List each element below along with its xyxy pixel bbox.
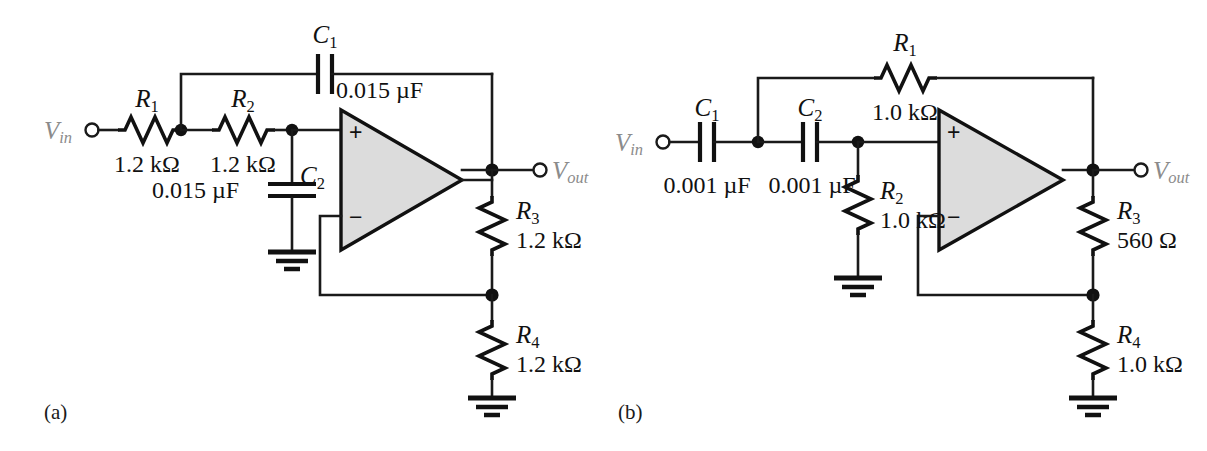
resistor-r4-symbol-b bbox=[1080, 320, 1106, 380]
label-r1-ref-b: R1 bbox=[893, 30, 917, 59]
label-c1-value-b: 0.001 µF bbox=[663, 173, 750, 197]
input-terminal-b[interactable] bbox=[657, 136, 670, 149]
label-r1-value-b: 1.0 kΩ bbox=[872, 100, 938, 124]
label-c1-value-a: 0.015 µF bbox=[336, 78, 423, 102]
label-vin-b: Vin bbox=[615, 130, 643, 159]
ground-symbol-r4-b bbox=[1069, 398, 1117, 415]
label-r1-value-a: 1.2 kΩ bbox=[114, 152, 180, 176]
label-c1-ref-a: C1 bbox=[313, 22, 338, 51]
label-vout-a: Vout bbox=[552, 158, 588, 187]
label-r4-value-b: 1.0 kΩ bbox=[1117, 352, 1183, 376]
output-terminal-b[interactable] bbox=[1135, 164, 1148, 177]
label-c2-value-b: 0.001 µF bbox=[768, 173, 855, 197]
ground-symbol-c2-a bbox=[268, 252, 316, 269]
ground-symbol-r4-a bbox=[468, 398, 516, 415]
label-r2-value-a: 1.2 kΩ bbox=[210, 152, 276, 176]
label-r4-value-a: 1.2 kΩ bbox=[516, 352, 582, 376]
opamp-inverting-sign-a: − bbox=[349, 206, 362, 229]
caption-a: (a) bbox=[44, 402, 67, 423]
label-r4-ref-b: R4 bbox=[1117, 322, 1141, 351]
resistor-r1-symbol-a bbox=[118, 117, 181, 143]
label-r2-ref-b: R2 bbox=[880, 178, 904, 207]
label-vin-a: Vin bbox=[44, 118, 72, 147]
label-c2-ref-a: C2 bbox=[300, 163, 325, 192]
opamp-noninverting-sign-b: + bbox=[947, 121, 960, 144]
ground-symbol-r2-b bbox=[834, 278, 882, 295]
label-r3-ref-a: R3 bbox=[516, 198, 540, 227]
resistor-r1-symbol-b bbox=[874, 65, 937, 91]
figure-root: Vin R1 1.2 kΩ R2 1.2 kΩ C1 0.015 µF C2 0… bbox=[0, 0, 1207, 451]
label-r2-ref-a: R2 bbox=[231, 86, 255, 115]
label-r1-ref-a: R1 bbox=[135, 86, 159, 115]
opamp-noninverting-sign-a: + bbox=[349, 121, 362, 144]
label-c1-ref-b: C1 bbox=[695, 95, 720, 124]
output-terminal-a[interactable] bbox=[534, 164, 547, 177]
opamp-inverting-sign-b: − bbox=[947, 206, 960, 229]
label-c2-ref-b: C2 bbox=[798, 95, 823, 124]
circuit-schematic-canvas bbox=[0, 0, 1207, 451]
label-r4-ref-a: R4 bbox=[516, 322, 540, 351]
caption-b: (b) bbox=[618, 402, 643, 423]
resistor-r4-symbol-a bbox=[479, 320, 505, 380]
input-terminal-a[interactable] bbox=[86, 124, 99, 137]
label-r3-ref-b: R3 bbox=[1117, 198, 1141, 227]
resistor-r3-symbol-a bbox=[479, 196, 505, 256]
label-r2-value-b: 1.0 kΩ bbox=[880, 208, 946, 232]
label-c2-value-a: 0.015 µF bbox=[152, 178, 239, 202]
label-r3-value-a: 1.2 kΩ bbox=[516, 228, 582, 252]
label-r3-value-b: 560 Ω bbox=[1117, 228, 1177, 252]
resistor-r3-symbol-b bbox=[1080, 196, 1106, 256]
label-vout-b: Vout bbox=[1153, 158, 1189, 187]
resistor-r2-symbol-a bbox=[212, 117, 275, 143]
